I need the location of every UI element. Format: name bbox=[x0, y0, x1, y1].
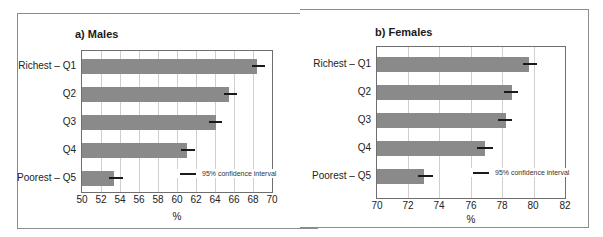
x-tick-label: 80 bbox=[527, 200, 538, 211]
error-bar-q3 bbox=[209, 121, 222, 123]
x-axis-label: % bbox=[467, 214, 476, 225]
error-bar-poorest-q5 bbox=[109, 177, 123, 179]
category-label: Q2 bbox=[63, 88, 76, 99]
category-label: Richest – Q1 bbox=[313, 58, 371, 69]
error-bar-poorest-q5 bbox=[418, 175, 433, 177]
legend-label: 95% confidence interval bbox=[202, 170, 276, 177]
x-tick-label: 64 bbox=[209, 194, 220, 205]
error-bar-q4 bbox=[181, 149, 195, 151]
category-label: Q4 bbox=[63, 144, 76, 155]
error-bar-q3 bbox=[498, 119, 512, 121]
bar-q3 bbox=[377, 113, 506, 128]
bar-q3 bbox=[82, 115, 216, 130]
bar-richest-q1 bbox=[377, 57, 529, 72]
category-label: Q3 bbox=[358, 114, 371, 125]
x-tick-label: 82 bbox=[559, 200, 570, 211]
bar-q4 bbox=[377, 141, 485, 156]
x-tick-label: 60 bbox=[171, 194, 182, 205]
bar-q4 bbox=[82, 143, 187, 158]
x-tick-label: 70 bbox=[371, 200, 382, 211]
x-tick-label: 66 bbox=[228, 194, 239, 205]
confidence-interval-legend-icon bbox=[180, 173, 196, 175]
error-bar-q2 bbox=[224, 93, 237, 95]
confidence-interval-legend-icon bbox=[473, 172, 489, 174]
bar-q2 bbox=[82, 87, 229, 102]
males-chart-title: a) Males bbox=[75, 28, 118, 40]
x-tick-label: 76 bbox=[465, 200, 476, 211]
x-tick-label: 52 bbox=[95, 194, 106, 205]
x-tick-label: 62 bbox=[190, 194, 201, 205]
category-label: Q4 bbox=[358, 142, 371, 153]
error-bar-q2 bbox=[504, 91, 518, 93]
bar-richest-q1 bbox=[82, 59, 257, 74]
males-legend: 95% confidence interval bbox=[177, 169, 279, 178]
error-bar-q4 bbox=[477, 147, 493, 149]
females-legend: 95% confidence interval bbox=[470, 168, 572, 177]
x-tick-label: 68 bbox=[247, 194, 258, 205]
legend-label: 95% confidence interval bbox=[495, 169, 569, 176]
category-label: Poorest – Q5 bbox=[312, 170, 371, 181]
x-tick-label: 70 bbox=[266, 194, 277, 205]
x-tick-label: 72 bbox=[402, 200, 413, 211]
females-plot-area: 95% confidence interval bbox=[376, 46, 566, 199]
bar-poorest-q5 bbox=[377, 169, 424, 184]
category-label: Poorest – Q5 bbox=[17, 172, 76, 183]
error-bar-richest-q1 bbox=[523, 63, 537, 65]
x-tick-label: 54 bbox=[114, 194, 125, 205]
females-chart-title: b) Females bbox=[375, 26, 432, 38]
x-tick-label: 58 bbox=[152, 194, 163, 205]
category-label: Q3 bbox=[63, 116, 76, 127]
category-label: Q2 bbox=[358, 86, 371, 97]
x-tick-label: 56 bbox=[133, 194, 144, 205]
males-plot-area: 95% confidence interval bbox=[81, 50, 273, 193]
x-tick-label: 74 bbox=[433, 200, 444, 211]
category-label: Richest – Q1 bbox=[18, 60, 76, 71]
bar-q2 bbox=[377, 85, 512, 100]
x-axis-label: % bbox=[173, 211, 182, 222]
x-tick-label: 78 bbox=[496, 200, 507, 211]
error-bar-richest-q1 bbox=[252, 65, 265, 67]
x-tick-label: 50 bbox=[76, 194, 87, 205]
